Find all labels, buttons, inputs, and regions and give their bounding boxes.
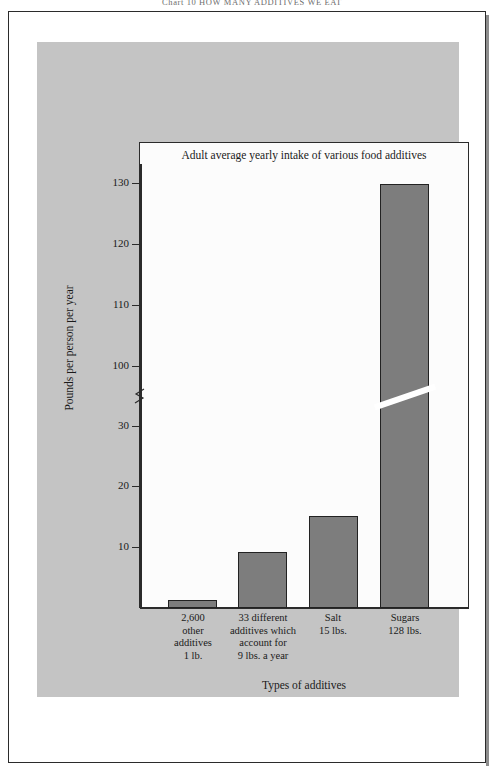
running-head: Chart 10 HOW MANY ADDITIVES WE EAT	[0, 0, 504, 8]
y-tick-label-110-wrap: 110	[85, 305, 129, 306]
y-tick-label-130: 130	[95, 176, 129, 188]
y-tick-20	[132, 486, 141, 487]
category-line: 15 lbs.	[293, 625, 373, 638]
category-line: Sugars	[365, 612, 445, 625]
y-tick-10	[132, 547, 141, 548]
y-tick-100	[132, 366, 141, 367]
x-axis-label: Types of additives	[139, 679, 469, 691]
category-label-salt: Salt 15 lbs.	[293, 612, 373, 637]
y-tick-label-10: 10	[95, 540, 129, 552]
y-axis-break-icon	[134, 388, 147, 404]
category-line: Salt	[293, 612, 373, 625]
category-line: 9 lbs. a year	[212, 650, 314, 663]
bar-other-additives	[168, 600, 217, 608]
y-tick-label-10-wrap: 10	[85, 547, 129, 548]
y-tick-label-100: 100	[95, 359, 129, 371]
category-line: account for	[212, 637, 314, 650]
y-tick-label-130-wrap: 130	[85, 183, 129, 184]
y-tick-label-20-wrap: 20	[85, 486, 129, 487]
y-tick-120	[132, 244, 141, 245]
y-tick-label-120-wrap: 120	[85, 244, 129, 245]
y-tick-130	[132, 183, 141, 184]
y-tick-label-20: 20	[95, 479, 129, 491]
y-tick-label-110: 110	[95, 298, 129, 310]
y-tick-label-120: 120	[95, 237, 129, 249]
y-tick-30	[132, 426, 141, 427]
page-frame: Adult average yearly intake of various f…	[8, 11, 486, 763]
y-tick-label-100-wrap: 100	[85, 366, 129, 367]
y-tick-label-30-wrap: 30	[85, 426, 129, 427]
y-axis-line	[140, 164, 142, 609]
y-tick-label-30: 30	[95, 419, 129, 431]
bar-33-different-additives	[238, 552, 287, 608]
figure-panel: Adult average yearly intake of various f…	[37, 42, 459, 697]
y-tick-110	[132, 305, 141, 306]
chart-title: Adult average yearly intake of various f…	[140, 149, 468, 161]
category-label-sugars: Sugars 128 lbs.	[365, 612, 445, 637]
bar-salt	[309, 516, 358, 608]
category-line: 128 lbs.	[365, 625, 445, 638]
y-axis-label: Pounds per person per year	[63, 258, 75, 438]
